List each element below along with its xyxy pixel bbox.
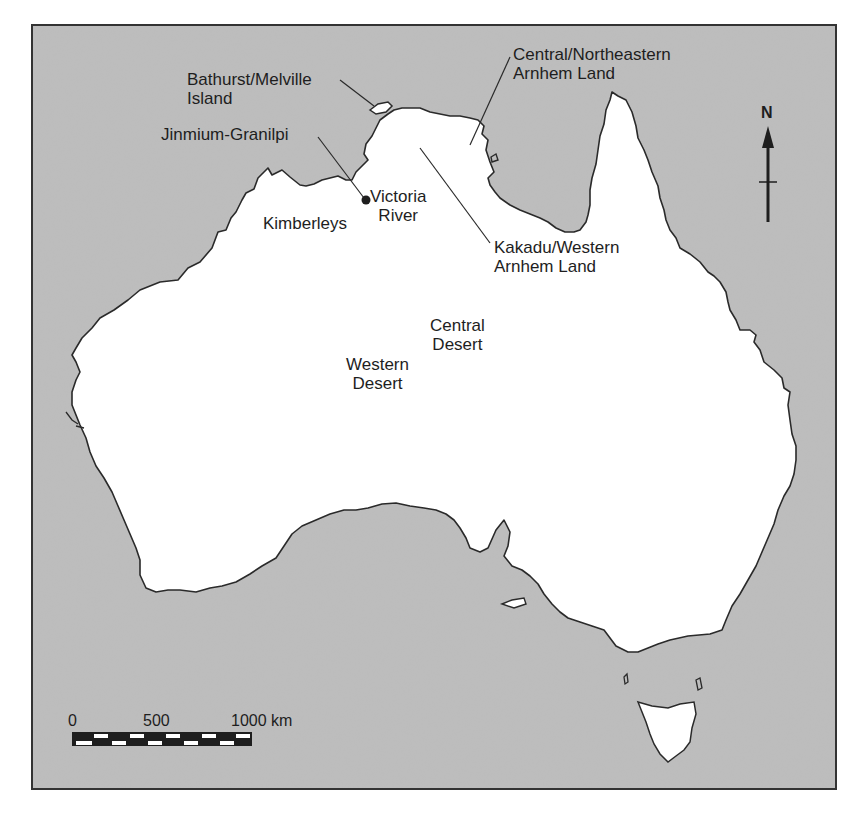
label-kakadu-western-arnhem: Kakadu/Western Arnhem Land	[494, 238, 619, 276]
label-victoria-river: Victoria River	[370, 187, 426, 225]
north-label: N	[761, 104, 773, 122]
label-jinmium-granilpi: Jinmium-Granilpi	[161, 125, 289, 144]
label-western-desert: Western Desert	[346, 355, 409, 393]
scale-bar	[72, 732, 252, 746]
label-bathurst-melville: Bathurst/Melville Island	[187, 70, 312, 108]
scale-tick-500: 500	[143, 712, 170, 730]
scale-tick-1000: 1000 km	[231, 712, 292, 730]
scale-tick-0: 0	[68, 712, 77, 730]
label-kimberleys: Kimberleys	[263, 214, 347, 233]
map-canvas	[0, 0, 858, 814]
label-central-northeastern-arnhem: Central/Northeastern Arnhem Land	[513, 45, 671, 83]
label-central-desert: Central Desert	[430, 316, 485, 354]
